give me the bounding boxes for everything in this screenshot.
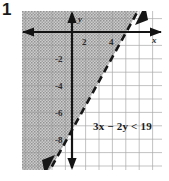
x-tick-label-2: 2 (82, 37, 87, 47)
problem-number-label: 1 (2, 1, 11, 18)
y-tick-label-neg4: -4 (55, 81, 63, 91)
x-tick-label-4: 4 (109, 37, 114, 47)
graph-plot-area: y x 2 4 -2 -4 -6 -8 (22, 11, 162, 170)
y-tick-label-neg8: -8 (55, 135, 63, 145)
inequality-annotation: 3x − 2y < 19 (93, 120, 152, 132)
x-axis-label: x (151, 35, 157, 45)
inequality-graph-figure: 1 (0, 0, 169, 181)
inequality-text: 3x − 2y < 19 (93, 120, 152, 132)
coordinate-plane-svg: y x 2 4 -2 -4 -6 -8 (22, 11, 162, 170)
y-tick-label-neg6: -6 (55, 108, 63, 118)
y-tick-label-neg2: -2 (55, 54, 63, 64)
